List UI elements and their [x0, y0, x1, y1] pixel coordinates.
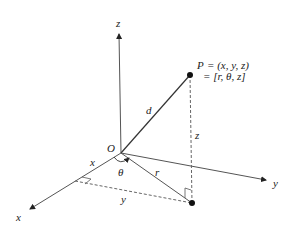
origin-label: O [107, 142, 115, 154]
point-p [187, 72, 193, 78]
segment-z-dashed [190, 75, 192, 203]
segment-y-dashed [75, 181, 192, 203]
z-axis-label: z [115, 17, 121, 29]
right-angle-marker-x [82, 177, 91, 184]
z-axis [119, 34, 121, 153]
label-z: z [194, 129, 200, 141]
segment-r [121, 153, 192, 203]
label-x: x [89, 156, 95, 168]
point-projection [189, 200, 195, 206]
cylindrical-coordinates-diagram: z y x O P = (x, y, z) = [r, θ, z] d z r … [0, 0, 289, 226]
x-axis-label: x [15, 211, 21, 223]
label-r: r [155, 166, 160, 178]
right-angle-marker-z [185, 188, 191, 198]
label-theta: θ [118, 166, 124, 178]
label-d: d [146, 104, 152, 116]
y-axis [121, 153, 266, 180]
y-axis-label: y [272, 177, 278, 189]
segment-d [121, 75, 190, 153]
label-y: y [120, 193, 126, 205]
point-cylindrical: = [r, θ, z] [203, 70, 245, 82]
theta-arc [114, 157, 129, 162]
